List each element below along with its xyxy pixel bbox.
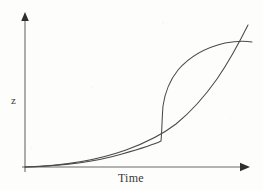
- figure-container: z Time: [0, 0, 263, 190]
- sigmoid-curve: [25, 41, 252, 167]
- arrow-right-icon: [240, 163, 250, 171]
- x-axis-label: Time: [118, 171, 144, 186]
- arrow-up-icon: [21, 12, 29, 21]
- y-axis-label: z: [11, 94, 16, 106]
- plot-canvas: [0, 0, 263, 190]
